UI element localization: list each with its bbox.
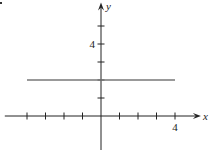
chart: 44xy [0, 0, 212, 150]
y-axis-label: y [105, 0, 111, 12]
y-tick-label: 4 [90, 38, 96, 50]
corner-dot [0, 2, 2, 4]
x-tick-label: 4 [172, 121, 178, 133]
x-axis-label: x [202, 110, 208, 122]
labels: 44xy [90, 0, 208, 133]
